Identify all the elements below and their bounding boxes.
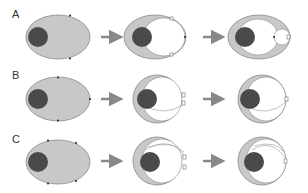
diagram bbox=[0, 0, 308, 193]
cell-a-stage1 bbox=[26, 15, 90, 60]
row-a bbox=[26, 15, 290, 60]
cell-b-stage2 bbox=[133, 75, 185, 123]
row-c bbox=[26, 137, 287, 185]
cell-b-stage3 bbox=[238, 75, 288, 123]
cell-b-stage1 bbox=[26, 77, 91, 122]
cell-c-stage1 bbox=[26, 140, 90, 185]
cell-a-stage2 bbox=[124, 15, 186, 59]
cell-a-stage3 bbox=[228, 15, 290, 59]
cell-c-stage2 bbox=[133, 137, 186, 185]
cell-c-stage3 bbox=[238, 137, 287, 185]
row-b bbox=[26, 75, 288, 123]
